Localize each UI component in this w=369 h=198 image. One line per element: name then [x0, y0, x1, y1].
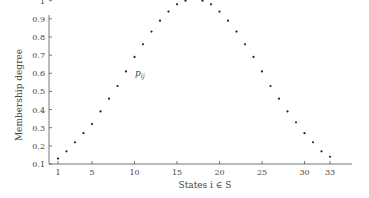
x-tick-label: 15: [172, 168, 182, 177]
x-tick-label: 1: [55, 168, 60, 177]
data-point: [65, 150, 67, 152]
data-point: [74, 141, 76, 143]
data-point: [269, 85, 271, 87]
x-tick-label: 30: [299, 168, 309, 177]
data-point: [320, 150, 322, 152]
data-point: [116, 85, 118, 87]
data-point: [261, 70, 263, 72]
y-tick-label: 0.5: [32, 87, 45, 96]
x-tick-label: 25: [257, 168, 267, 177]
data-point: [278, 98, 280, 100]
data-point: [142, 43, 144, 45]
data-point: [312, 141, 314, 143]
x-axis-label: States i ∈ S: [179, 180, 232, 190]
data-point: [167, 10, 169, 12]
data-point: [184, 0, 186, 2]
y-tick-label: 0.2: [32, 142, 45, 151]
x-tick-label: 20: [214, 168, 224, 177]
data-point: [82, 132, 84, 134]
data-point: [218, 10, 220, 12]
data-point: [133, 56, 135, 58]
data-point: [286, 110, 288, 112]
annotation-pij: pij: [135, 68, 145, 80]
data-point: [91, 123, 93, 125]
y-tick-label: 0.1: [32, 160, 45, 169]
x-tick-label: 33: [325, 168, 335, 177]
data-point: [150, 30, 152, 32]
data-point: [176, 3, 178, 5]
x-tick-label: 5: [89, 168, 94, 177]
data-point: [303, 132, 305, 134]
membership-chart: 0.10.20.30.40.50.60.70.80.91 15101520253…: [0, 0, 369, 198]
data-point: [108, 98, 110, 100]
y-tick-label: 0.6: [32, 69, 45, 78]
y-tick-label: 0.4: [32, 106, 45, 115]
data-point: [57, 157, 59, 159]
data-point: [125, 70, 127, 72]
x-ticks: 15101520253033: [55, 161, 335, 177]
y-tick-label: 0.9: [32, 15, 45, 24]
data-point: [159, 20, 161, 22]
data-point: [99, 110, 101, 112]
y-axis-label: Membership degree: [14, 49, 24, 141]
y-tick-label: 0.7: [32, 51, 45, 60]
data-point: [210, 3, 212, 5]
x-tick-label: 10: [129, 168, 139, 177]
axes: [49, 15, 352, 164]
data-point: [235, 30, 237, 32]
data-point: [329, 156, 331, 158]
data-point: [295, 121, 297, 123]
data-point: [252, 56, 254, 58]
y-tick-label: 0.8: [32, 33, 45, 42]
data-point: [201, 0, 203, 2]
y-tick-label: 0.3: [32, 124, 45, 133]
data-point: [244, 43, 246, 45]
y-tick-label: 1: [40, 0, 45, 6]
data-points: [57, 0, 331, 160]
data-point: [227, 20, 229, 22]
